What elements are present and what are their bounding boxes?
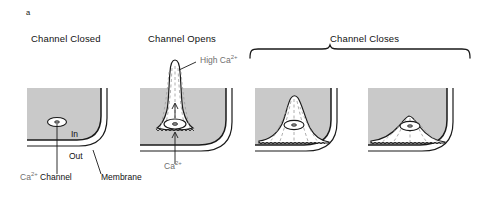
high-ca-label-charge: 2+ [231,54,238,60]
leader-high-ca-2 [179,62,196,70]
ca-channel-label-ca: Ca [20,172,31,182]
panel-4-drawing [368,88,453,151]
ca-influx-label-text: Ca [164,161,175,171]
diagram-svg [0,0,486,208]
leader-membrane-1 [93,150,101,174]
ca-channel-2 [164,119,186,129]
ca-channel-label-charge: 2+ [31,171,38,177]
ca-influx-label: Ca2+ [164,161,182,171]
panel-2-drawing [140,60,232,164]
high-ca-label: High Ca2+ [200,55,238,65]
figure-container: a Channel Closed Channel Opens Channel C… [0,0,486,208]
high-ca-label-text: High Ca [200,55,231,65]
ca-channel-label: Ca2+ Channel [20,172,72,182]
cytoplasm-fill-1 [27,88,101,140]
membrane-label: Membrane [101,172,142,182]
in-label: In [71,129,78,139]
ca-influx-label-charge: 2+ [175,160,182,166]
ca-channel-label-word: Channel [38,172,72,182]
channel-closes-brace [250,45,470,58]
ca-channel-4 [400,121,420,130]
ca-channel-3 [284,120,304,129]
panel-3-drawing [255,88,337,151]
panel-1-drawing [27,88,107,174]
out-label: Out [69,151,83,161]
